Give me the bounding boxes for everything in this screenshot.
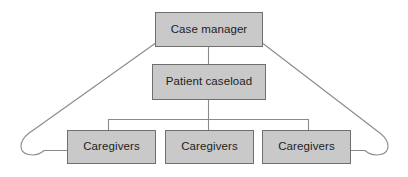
node-caregivers-mid[interactable]: Caregivers <box>165 130 254 164</box>
node-caregivers-right-label: Caregivers <box>278 141 335 153</box>
node-patient-caseload[interactable]: Patient caseload <box>152 64 266 100</box>
node-caregivers-right[interactable]: Caregivers <box>262 130 351 164</box>
node-caregivers-left-label: Caregivers <box>83 141 140 153</box>
node-patient-caseload-label: Patient caseload <box>166 76 253 88</box>
diagram-canvas: Case manager Patient caseload Caregivers… <box>0 0 408 177</box>
node-caregivers-left[interactable]: Caregivers <box>67 130 156 164</box>
node-caregivers-mid-label: Caregivers <box>181 141 238 153</box>
node-case-manager[interactable]: Case manager <box>155 12 263 47</box>
node-case-manager-label: Case manager <box>171 24 248 36</box>
